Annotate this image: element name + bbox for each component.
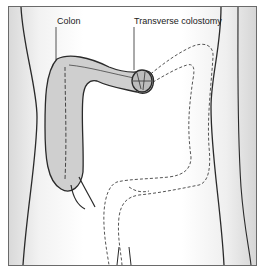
abdomen-illustration xyxy=(9,7,256,265)
dashed-colon-inner xyxy=(104,65,194,265)
colon-label: Colon xyxy=(57,16,81,26)
illustration-frame xyxy=(8,6,257,266)
transverse-colostomy-label: Transverse colostomy xyxy=(134,16,222,26)
torso-left-outline xyxy=(21,7,37,265)
torso-right-outline xyxy=(211,7,224,265)
arm-outline xyxy=(238,7,251,265)
